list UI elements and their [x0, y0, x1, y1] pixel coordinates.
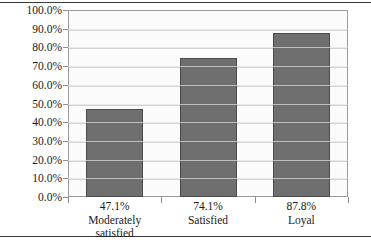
y-axis-tick-label: 50.0% — [0, 98, 62, 110]
bar-chart-figure: 0.0%10.0%20.0%30.0%40.0%50.0%60.0%70.0%8… — [0, 0, 371, 242]
y-axis-tick-label: 10.0% — [0, 172, 62, 184]
y-axis-tick-label: 40.0% — [0, 116, 62, 128]
category-name-line: Loyal — [246, 214, 356, 228]
y-axis-tick-label: 100.0% — [0, 4, 62, 16]
y-axis-tick-label: 60.0% — [0, 79, 62, 91]
bar — [180, 58, 237, 197]
y-axis-tick-label: 0.0% — [0, 191, 62, 203]
y-axis-tick-label: 30.0% — [0, 135, 62, 147]
bar-value-label: 87.8% — [246, 200, 356, 214]
y-axis-tick-label: 80.0% — [0, 41, 62, 53]
y-axis-tick-label: 90.0% — [0, 23, 62, 35]
y-axis-tick-label: 70.0% — [0, 60, 62, 72]
bottom-divider-rule — [0, 236, 371, 237]
bar-series — [68, 10, 348, 197]
bar — [86, 109, 143, 197]
bar — [273, 33, 330, 197]
y-axis-tick-label: 20.0% — [0, 154, 62, 166]
x-axis-category-label: 87.8%Loyal — [246, 200, 356, 227]
category-name-line: satisfied — [60, 227, 170, 241]
top-divider-rule — [0, 2, 371, 3]
